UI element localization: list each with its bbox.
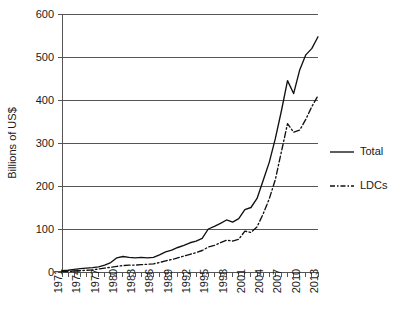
y-tick-label-500: 500 [36,51,54,63]
x-tick-label-1983: 1983 [125,269,137,293]
x-tick-label-2007: 2007 [271,269,283,293]
x-tick-label-1992: 1992 [180,269,192,293]
x-tick-label-1971: 1971 [52,269,64,293]
y-tick-label-300: 300 [36,137,54,149]
x-tick-label-1974: 1974 [70,269,82,293]
chart-container: 0100200300400500600 19711974197719801983… [0,0,398,331]
y-axis-title: Billions of US$ [6,107,18,179]
y-tick-label-600: 600 [36,8,54,20]
x-tick-label-2004: 2004 [253,269,265,293]
x-tick-label-1977: 1977 [89,269,101,293]
y-tick-label-400: 400 [36,94,54,106]
legend-label-ldcs: LDCs [360,179,388,191]
legend-label-total: Total [360,145,383,157]
y-tick-label-100: 100 [36,223,54,235]
x-axis-tick-labels: 1971197419771980198319861989199219951998… [52,269,320,293]
y-tick-label-200: 200 [36,180,54,192]
x-tick-label-2013: 2013 [308,269,320,293]
x-tick-label-1995: 1995 [198,269,210,293]
x-tick-label-1980: 1980 [107,269,119,293]
x-tick-label-1998: 1998 [217,269,229,293]
x-tick-label-2010: 2010 [290,269,302,293]
x-tick-label-2001: 2001 [235,269,247,293]
x-tick-label-1986: 1986 [143,269,155,293]
line-chart: 0100200300400500600 19711974197719801983… [0,0,398,331]
x-tick-label-1989: 1989 [162,269,174,293]
